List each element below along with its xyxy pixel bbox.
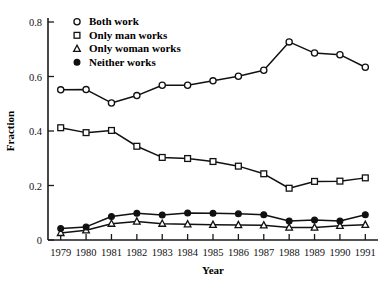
data-point [362, 64, 368, 70]
data-point [210, 159, 216, 165]
data-point [261, 171, 267, 177]
data-point [337, 218, 343, 224]
data-point [58, 226, 64, 232]
x-tick-label: 1988 [279, 247, 300, 258]
legend-marker-icon [74, 59, 80, 65]
legend-item-1: Only man works [74, 29, 168, 41]
x-tick-label: 1982 [126, 247, 147, 258]
data-point [312, 217, 318, 223]
data-point [337, 52, 343, 58]
data-point [210, 221, 217, 227]
data-point [134, 92, 140, 98]
data-point [109, 214, 115, 220]
data-point [185, 210, 191, 216]
data-point [185, 156, 191, 162]
legend-marker-icon [74, 32, 80, 38]
data-point [83, 130, 89, 136]
series-layer [57, 39, 368, 236]
data-point [286, 218, 292, 224]
y-axis-ticks: 00.20.40.60.8 [29, 17, 54, 246]
data-point [58, 87, 64, 93]
y-tick-label: 0.6 [29, 72, 42, 83]
x-tick-label: 1986 [228, 247, 249, 258]
x-tick-label: 1990 [329, 247, 350, 258]
legend-label: Neither works [89, 56, 156, 68]
data-point [134, 210, 140, 216]
data-point [109, 128, 115, 134]
legend-item-2: Only woman works [74, 42, 182, 54]
x-tick-label: 1984 [177, 247, 199, 258]
x-axis-ticks: 1979198019811982198319841985198619871988… [50, 234, 376, 258]
data-point [362, 221, 369, 227]
data-point [260, 222, 267, 228]
data-point [159, 212, 165, 218]
x-tick-label: 1989 [304, 247, 325, 258]
chart-legend: Both workOnly man worksOnly woman worksN… [74, 15, 182, 68]
data-point [311, 50, 317, 56]
x-tick-label: 1991 [355, 247, 376, 258]
chart-container: 00.20.40.60.8 19791980198119821983198419… [0, 0, 390, 281]
y-tick-label: 0.4 [29, 126, 43, 137]
data-point [362, 212, 368, 218]
x-tick-label: 1985 [203, 247, 224, 258]
line-chart: 00.20.40.60.8 19791980198119821983198419… [0, 0, 390, 281]
data-point [108, 100, 114, 106]
data-point [159, 220, 166, 226]
legend-marker-icon [74, 45, 81, 51]
series-1 [58, 125, 368, 191]
x-axis-title: Year [202, 264, 224, 276]
data-point [210, 78, 216, 84]
data-point [235, 163, 241, 169]
x-tick-label: 1981 [101, 247, 122, 258]
data-point [311, 224, 318, 230]
data-point [362, 175, 368, 181]
x-tick-label: 1987 [253, 247, 274, 258]
legend-item-0: Both work [74, 15, 140, 27]
legend-label: Both work [89, 15, 140, 27]
data-point [235, 211, 241, 217]
legend-marker-icon [74, 19, 80, 25]
y-tick-label: 0.8 [29, 17, 42, 28]
data-point [83, 224, 89, 230]
data-point [134, 143, 140, 149]
data-point [184, 221, 191, 227]
data-point [159, 82, 165, 88]
data-point [210, 210, 216, 216]
data-point [261, 67, 267, 73]
data-point [159, 155, 165, 161]
data-point [108, 220, 115, 226]
legend-label: Only woman works [89, 42, 181, 54]
data-point [286, 39, 292, 45]
data-point [261, 212, 267, 218]
data-point [312, 179, 318, 185]
y-tick-label: 0.2 [29, 181, 42, 192]
y-axis-title: Fraction [4, 111, 16, 151]
data-point [286, 185, 292, 191]
legend-label: Only man works [89, 29, 168, 41]
x-tick-label: 1979 [50, 247, 71, 258]
data-point [235, 221, 242, 227]
x-tick-label: 1980 [76, 247, 97, 258]
y-tick-label: 0 [37, 235, 42, 246]
data-point [83, 86, 89, 92]
x-tick-label: 1983 [152, 247, 173, 258]
data-point [185, 82, 191, 88]
data-point [337, 178, 343, 184]
data-point [58, 125, 64, 131]
data-point [235, 73, 241, 79]
data-point [286, 224, 293, 230]
data-point [134, 218, 141, 224]
legend-item-3: Neither works [74, 56, 156, 68]
